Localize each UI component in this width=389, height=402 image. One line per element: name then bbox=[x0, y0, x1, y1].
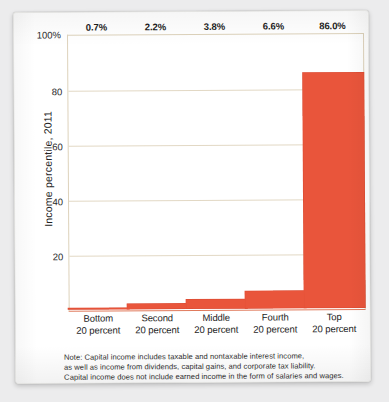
x-axis-label-line1: Top bbox=[305, 311, 363, 323]
x-axis-label-top-20-percent: Top 20 percent bbox=[305, 311, 363, 335]
x-axis-label-line1: Bottom bbox=[69, 312, 127, 324]
x-axis-label-line1: Second bbox=[128, 312, 186, 324]
bar-chart: Income percentile, 2011 100% 80 60 40 20… bbox=[14, 11, 370, 383]
chart-note: Note: Capital income includes taxable an… bbox=[64, 351, 360, 383]
x-axis-label-line1: Middle bbox=[187, 312, 245, 324]
x-axis-label-line2: 20 percent bbox=[247, 323, 305, 335]
bar-column-top-20-percent: 86.0% bbox=[304, 33, 363, 308]
x-axis-label-line2: 20 percent bbox=[70, 324, 128, 336]
x-axis-label-line1: Fourth bbox=[246, 311, 304, 323]
x-axis-label-fourth-20-percent: Fourth 20 percent bbox=[246, 311, 304, 335]
chart-note-line3: Capital income does not include earned i… bbox=[64, 371, 360, 383]
y-axis-title: Income percentile, 2011 bbox=[41, 74, 54, 264]
y-axis-tick-label-40: 40 bbox=[52, 196, 63, 207]
bar-value-label: 6.6% bbox=[263, 20, 284, 31]
bar-column-bottom-20-percent: 0.7% bbox=[68, 34, 127, 309]
bar-series: 0.7% 2.2% 3.8% 6.6% 86.0% bbox=[67, 33, 364, 310]
table-row[interactable] bbox=[244, 290, 306, 309]
x-axis-label-line2: 20 percent bbox=[129, 324, 187, 336]
bar-value-label: 0.7% bbox=[86, 22, 107, 33]
x-axis-label-line2: 20 percent bbox=[188, 324, 246, 336]
bar-column-fourth-20-percent: 6.6% bbox=[245, 33, 304, 308]
y-axis-tick-label-60: 60 bbox=[52, 141, 63, 152]
bar-column-middle-20-percent: 3.8% bbox=[186, 34, 245, 309]
table-row[interactable] bbox=[126, 303, 188, 309]
bar-value-label: 3.8% bbox=[204, 21, 225, 32]
table-row[interactable] bbox=[302, 71, 365, 308]
x-axis-label-line2: 20 percent bbox=[306, 323, 364, 335]
bar-column-second-20-percent: 2.2% bbox=[127, 34, 186, 309]
table-row[interactable] bbox=[185, 298, 247, 309]
y-axis-tick-label-80: 80 bbox=[52, 86, 63, 97]
bar-value-label: 86.0% bbox=[319, 20, 346, 31]
y-axis-tick-label-100: 100% bbox=[37, 29, 61, 40]
x-axis-labels: Bottom 20 percent Second 20 percent Midd… bbox=[69, 311, 364, 337]
bar-value-label: 2.2% bbox=[145, 21, 166, 32]
x-axis-label-middle-20-percent: Middle 20 percent bbox=[187, 312, 245, 336]
y-axis-tick-label-20: 20 bbox=[53, 251, 64, 262]
table-row[interactable] bbox=[67, 307, 129, 309]
scanned-chart-page: Income percentile, 2011 100% 80 60 40 20… bbox=[13, 10, 371, 384]
x-axis-label-bottom-20-percent: Bottom 20 percent bbox=[69, 312, 127, 336]
x-axis-label-second-20-percent: Second 20 percent bbox=[128, 312, 186, 336]
